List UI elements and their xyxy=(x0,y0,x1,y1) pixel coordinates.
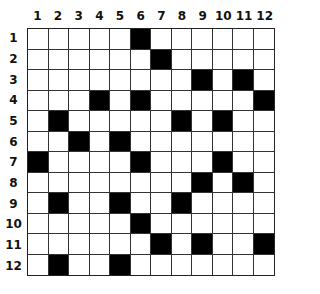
white-cell[interactable] xyxy=(90,152,111,173)
white-cell[interactable] xyxy=(49,214,70,235)
white-cell[interactable] xyxy=(172,132,193,153)
white-cell[interactable] xyxy=(131,50,152,71)
white-cell[interactable] xyxy=(90,132,111,153)
white-cell[interactable] xyxy=(151,173,172,194)
white-cell[interactable] xyxy=(192,132,213,153)
white-cell[interactable] xyxy=(151,193,172,214)
white-cell[interactable] xyxy=(131,111,152,132)
white-cell[interactable] xyxy=(213,132,234,153)
white-cell[interactable] xyxy=(192,193,213,214)
white-cell[interactable] xyxy=(28,70,49,91)
white-cell[interactable] xyxy=(254,111,275,132)
white-cell[interactable] xyxy=(49,234,70,255)
white-cell[interactable] xyxy=(192,152,213,173)
white-cell[interactable] xyxy=(151,70,172,91)
white-cell[interactable] xyxy=(69,50,90,71)
white-cell[interactable] xyxy=(69,193,90,214)
white-cell[interactable] xyxy=(192,214,213,235)
white-cell[interactable] xyxy=(151,255,172,276)
white-cell[interactable] xyxy=(49,91,70,112)
white-cell[interactable] xyxy=(254,173,275,194)
white-cell[interactable] xyxy=(172,50,193,71)
white-cell[interactable] xyxy=(192,50,213,71)
white-cell[interactable] xyxy=(131,70,152,91)
white-cell[interactable] xyxy=(192,255,213,276)
white-cell[interactable] xyxy=(90,70,111,91)
white-cell[interactable] xyxy=(254,255,275,276)
white-cell[interactable] xyxy=(172,255,193,276)
white-cell[interactable] xyxy=(172,70,193,91)
white-cell[interactable] xyxy=(233,132,254,153)
white-cell[interactable] xyxy=(90,193,111,214)
white-cell[interactable] xyxy=(213,91,234,112)
white-cell[interactable] xyxy=(233,255,254,276)
white-cell[interactable] xyxy=(213,29,234,50)
white-cell[interactable] xyxy=(28,234,49,255)
white-cell[interactable] xyxy=(254,132,275,153)
white-cell[interactable] xyxy=(192,111,213,132)
white-cell[interactable] xyxy=(110,234,131,255)
white-cell[interactable] xyxy=(90,29,111,50)
white-cell[interactable] xyxy=(90,50,111,71)
white-cell[interactable] xyxy=(110,111,131,132)
white-cell[interactable] xyxy=(172,91,193,112)
white-cell[interactable] xyxy=(69,111,90,132)
white-cell[interactable] xyxy=(233,111,254,132)
white-cell[interactable] xyxy=(151,132,172,153)
white-cell[interactable] xyxy=(131,193,152,214)
white-cell[interactable] xyxy=(213,214,234,235)
white-cell[interactable] xyxy=(69,214,90,235)
white-cell[interactable] xyxy=(254,214,275,235)
white-cell[interactable] xyxy=(254,70,275,91)
white-cell[interactable] xyxy=(110,152,131,173)
white-cell[interactable] xyxy=(110,29,131,50)
white-cell[interactable] xyxy=(90,234,111,255)
white-cell[interactable] xyxy=(192,91,213,112)
white-cell[interactable] xyxy=(110,214,131,235)
white-cell[interactable] xyxy=(172,152,193,173)
white-cell[interactable] xyxy=(28,132,49,153)
white-cell[interactable] xyxy=(90,111,111,132)
white-cell[interactable] xyxy=(233,29,254,50)
white-cell[interactable] xyxy=(213,50,234,71)
white-cell[interactable] xyxy=(131,173,152,194)
white-cell[interactable] xyxy=(49,29,70,50)
white-cell[interactable] xyxy=(151,152,172,173)
white-cell[interactable] xyxy=(28,111,49,132)
white-cell[interactable] xyxy=(69,255,90,276)
white-cell[interactable] xyxy=(151,91,172,112)
white-cell[interactable] xyxy=(110,173,131,194)
white-cell[interactable] xyxy=(69,91,90,112)
white-cell[interactable] xyxy=(131,255,152,276)
white-cell[interactable] xyxy=(28,50,49,71)
white-cell[interactable] xyxy=(28,214,49,235)
white-cell[interactable] xyxy=(110,70,131,91)
white-cell[interactable] xyxy=(233,91,254,112)
white-cell[interactable] xyxy=(172,29,193,50)
white-cell[interactable] xyxy=(192,29,213,50)
white-cell[interactable] xyxy=(172,234,193,255)
white-cell[interactable] xyxy=(28,29,49,50)
white-cell[interactable] xyxy=(49,132,70,153)
white-cell[interactable] xyxy=(69,70,90,91)
white-cell[interactable] xyxy=(28,193,49,214)
white-cell[interactable] xyxy=(90,173,111,194)
white-cell[interactable] xyxy=(151,29,172,50)
white-cell[interactable] xyxy=(69,234,90,255)
white-cell[interactable] xyxy=(213,70,234,91)
white-cell[interactable] xyxy=(254,50,275,71)
white-cell[interactable] xyxy=(233,152,254,173)
white-cell[interactable] xyxy=(172,214,193,235)
white-cell[interactable] xyxy=(110,91,131,112)
white-cell[interactable] xyxy=(69,29,90,50)
white-cell[interactable] xyxy=(28,91,49,112)
white-cell[interactable] xyxy=(28,255,49,276)
white-cell[interactable] xyxy=(254,193,275,214)
white-cell[interactable] xyxy=(49,50,70,71)
white-cell[interactable] xyxy=(254,29,275,50)
white-cell[interactable] xyxy=(131,132,152,153)
white-cell[interactable] xyxy=(213,234,234,255)
white-cell[interactable] xyxy=(151,214,172,235)
white-cell[interactable] xyxy=(28,173,49,194)
white-cell[interactable] xyxy=(233,193,254,214)
